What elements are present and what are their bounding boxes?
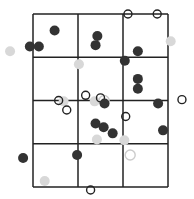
dark-point — [25, 41, 35, 51]
light-point — [74, 59, 84, 69]
dark-point — [100, 99, 110, 109]
dark-point — [120, 56, 130, 66]
dark-point — [50, 25, 60, 35]
dark-point — [91, 40, 101, 50]
open-point — [82, 91, 90, 99]
scatter-grid-diagram — [0, 0, 194, 199]
open-point — [63, 106, 71, 114]
light-point — [166, 36, 176, 46]
open-point — [178, 96, 186, 104]
points — [5, 10, 186, 194]
dark-point — [99, 122, 109, 132]
dark-point — [133, 46, 143, 56]
dark-point — [92, 31, 102, 41]
dark-point — [34, 41, 44, 51]
dark-point — [153, 99, 163, 109]
dark-point — [133, 84, 143, 94]
dark-point — [72, 150, 82, 160]
open-light-point — [125, 150, 135, 160]
light-point — [40, 176, 50, 186]
dark-point — [18, 153, 28, 163]
dark-point — [158, 125, 168, 135]
dark-point — [133, 74, 143, 84]
light-point — [5, 46, 15, 56]
light-point — [92, 134, 102, 144]
dark-point — [108, 128, 118, 138]
light-point — [119, 135, 129, 145]
